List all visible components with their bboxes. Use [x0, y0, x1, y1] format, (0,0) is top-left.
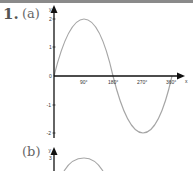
- curve-b: [64, 158, 103, 171]
- xtick-270: 270°: [137, 79, 147, 85]
- xtick-360: 360°: [166, 79, 176, 85]
- xtick-90: 90°: [80, 79, 88, 85]
- sine-graph-b: y 3: [49, 147, 104, 171]
- ytick-2: 2: [49, 16, 52, 22]
- y-axis-b-arrow-icon: [51, 147, 58, 155]
- x-axis-arrow-icon: [177, 73, 185, 80]
- ytick-b-3: 3: [49, 155, 52, 161]
- ytick-0: 0: [49, 73, 52, 79]
- xtick-180: 180°: [108, 79, 118, 85]
- ytick-neg1: -1: [47, 102, 52, 108]
- ytick-1: 1: [49, 44, 52, 50]
- x-axis-label: x: [185, 78, 188, 84]
- y-axis-b-label: y: [49, 147, 52, 153]
- y-axis-arrow-icon: [51, 5, 58, 13]
- sine-graph-a: y x 2 1 0 -1 -2 90° 180° 270° 360° y 3: [0, 0, 193, 171]
- ytick-neg2: -2: [47, 130, 52, 136]
